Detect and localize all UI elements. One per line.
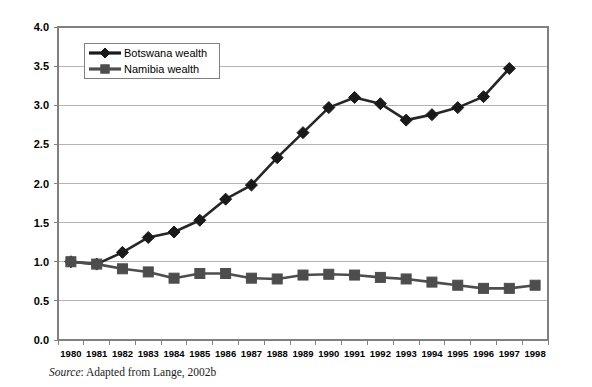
y-tick-label: 2.5 — [34, 138, 49, 150]
square-marker — [298, 270, 308, 280]
diamond-marker — [349, 91, 361, 103]
x-tick-label: 1980 — [60, 348, 81, 359]
square-marker — [401, 274, 411, 284]
source-note-text: : Adapted from Lange, 2002b — [81, 366, 217, 378]
square-marker — [453, 280, 463, 290]
x-tick-label: 1982 — [112, 348, 133, 359]
square-marker — [195, 268, 205, 278]
square-marker — [530, 280, 540, 290]
x-tick-label: 1989 — [292, 348, 313, 359]
x-tick-label: 1985 — [189, 348, 211, 359]
source-note: Source: Adapted from Lange, 2002b — [49, 366, 216, 378]
square-marker — [66, 257, 76, 267]
diamond-marker — [116, 246, 128, 258]
y-tick-label: 1.0 — [34, 256, 49, 268]
square-marker — [92, 259, 102, 269]
square-marker — [246, 273, 256, 283]
x-tick-label: 1997 — [499, 348, 520, 359]
diamond-marker — [168, 226, 180, 238]
y-tick-label: 0.5 — [34, 295, 49, 307]
y-tick-label: 3.0 — [34, 99, 49, 111]
y-tick-label: 1.5 — [34, 217, 49, 229]
x-tick-label: 1996 — [473, 348, 494, 359]
y-tick-label: 4.0 — [34, 21, 49, 33]
data-series-layer — [65, 62, 540, 293]
square-marker — [101, 65, 109, 73]
x-axis-tick-labels: 1980198119821983198419851986198719881989… — [60, 348, 545, 359]
x-tick-label: 1987 — [241, 348, 262, 359]
square-marker — [324, 269, 334, 279]
x-tick-label: 1991 — [344, 348, 366, 359]
source-note-prefix: Source — [49, 366, 81, 378]
x-tick-label: 1998 — [525, 348, 546, 359]
legend-label: Namibia wealth — [124, 63, 199, 75]
diamond-marker — [142, 231, 154, 243]
square-marker — [221, 268, 231, 278]
wealth-line-chart: 0.00.51.01.52.02.53.03.54.0 198019811982… — [0, 0, 592, 360]
diamond-marker — [426, 109, 438, 121]
legend-label: Botswana wealth — [124, 47, 207, 59]
y-tick-label: 2.0 — [34, 178, 49, 190]
y-tick-label: 0.0 — [34, 334, 49, 346]
x-tick-label: 1993 — [396, 348, 417, 359]
square-marker — [350, 270, 360, 280]
x-tick-label: 1994 — [421, 348, 443, 359]
square-marker — [479, 283, 489, 293]
y-tick-label: 3.5 — [34, 60, 49, 72]
x-tick-label: 1992 — [370, 348, 391, 359]
series-line — [71, 68, 509, 264]
square-marker — [272, 274, 282, 284]
x-tick-label: 1984 — [163, 348, 185, 359]
x-axis-tick-marks — [58, 340, 548, 345]
series-botswana — [65, 62, 515, 270]
square-marker — [427, 277, 437, 287]
diamond-marker — [452, 102, 464, 114]
x-tick-label: 1988 — [267, 348, 288, 359]
x-tick-label: 1995 — [447, 348, 469, 359]
x-tick-label: 1986 — [215, 348, 236, 359]
x-tick-label: 1990 — [318, 348, 339, 359]
square-marker — [169, 273, 179, 283]
x-tick-label: 1983 — [138, 348, 159, 359]
y-axis-tick-labels: 0.00.51.01.52.02.53.03.54.0 — [34, 21, 49, 346]
chart-legend: Botswana wealthNamibia wealth — [84, 43, 219, 78]
square-marker — [143, 267, 153, 277]
chart-figure: 0.00.51.01.52.02.53.03.54.0 198019811982… — [0, 0, 592, 387]
square-marker — [375, 272, 385, 282]
x-tick-label: 1981 — [86, 348, 108, 359]
square-marker — [504, 283, 514, 293]
legend-entry: Namibia wealth — [89, 63, 199, 75]
square-marker — [117, 264, 127, 274]
